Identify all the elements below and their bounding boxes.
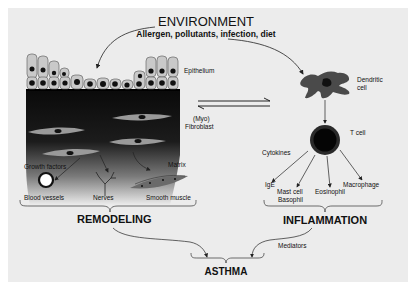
environment-subtitle: Allergen, pollutants, infection, diet <box>136 29 275 39</box>
dendritic-label-line2: cell <box>357 84 367 91</box>
asthma-label: ASTHMA <box>205 266 248 277</box>
growth-factors-label: Growth factors <box>24 163 67 170</box>
tcell-label: T cell <box>350 129 366 136</box>
matrix-label: Matrix <box>168 161 186 168</box>
target-basophil: Basophil <box>278 196 303 204</box>
target-blood-vessels: Blood vessels <box>24 194 65 201</box>
fibroblast-label-line2: Fibroblast <box>185 123 214 130</box>
t-cell-icon <box>310 125 340 155</box>
cytokines-label: Cytokines <box>262 149 291 157</box>
asthma-pathogenesis-diagram: ENVIRONMENT Allergen, pollutants, infect… <box>0 0 413 292</box>
target-smooth-muscle: Smooth muscle <box>146 194 191 201</box>
target-mast-cell: Mast cell <box>277 188 303 195</box>
target-ige: IgE <box>265 181 275 189</box>
remodeling-label: REMODELING <box>77 213 152 225</box>
mediators-label: Mediators <box>278 242 307 249</box>
target-nerves: Nerves <box>93 194 114 201</box>
blood-vessel-icon <box>39 173 53 187</box>
target-macrophage: Macrophage <box>343 181 380 189</box>
fibroblast-label-line1: (Myo) <box>193 115 210 123</box>
inflammation-label: INFLAMMATION <box>283 214 367 226</box>
environment-title: ENVIRONMENT <box>158 14 254 29</box>
epithelium-label: Epithelium <box>184 67 214 75</box>
dendritic-label-line1: Dendritic <box>357 76 383 83</box>
target-eosinophil: Eosinophil <box>315 188 346 196</box>
